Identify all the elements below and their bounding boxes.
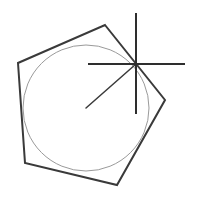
diagram-canvas <box>0 0 207 204</box>
background <box>0 0 207 204</box>
